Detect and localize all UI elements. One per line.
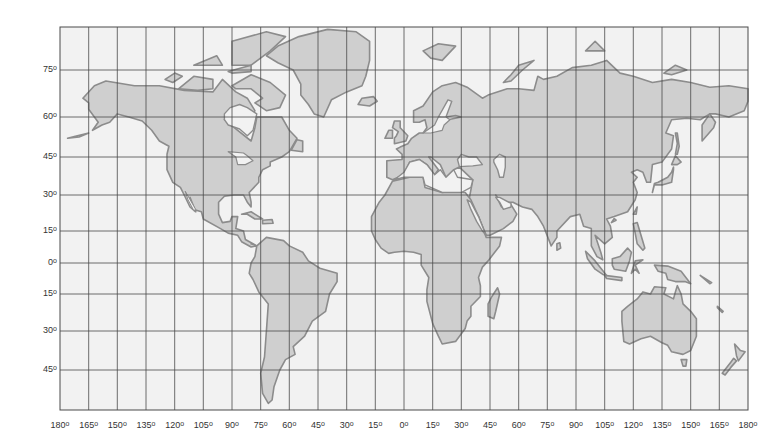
latitude-label: 0o (27, 258, 57, 267)
longitude-label: 90o (217, 421, 247, 430)
longitude-label: 45o (303, 421, 333, 430)
latitude-label: 30o (27, 190, 57, 199)
longitude-label: 180o (733, 421, 763, 430)
longitude-label: 180o (45, 421, 75, 430)
longitude-label: 45o (475, 421, 505, 430)
tasmania-landmass (681, 360, 687, 367)
longitude-label: 105o (188, 421, 218, 430)
latitude-label: 45o (27, 152, 57, 161)
latitude-label: 30o (27, 326, 57, 335)
latitude-label: 75o (27, 65, 57, 74)
longitude-label: 135o (131, 421, 161, 430)
longitude-label: 90o (561, 421, 591, 430)
longitude-label: 15o (360, 421, 390, 430)
longitude-label: 60o (274, 421, 304, 430)
longitude-label: 0o (389, 421, 419, 430)
sri-lanka-landmass (557, 243, 561, 251)
longitude-label: 30o (332, 421, 362, 430)
longitude-label: 165o (704, 421, 734, 430)
longitude-label: 75o (532, 421, 562, 430)
longitude-label: 105o (590, 421, 620, 430)
latitude-label: 60o (27, 112, 57, 121)
longitude-label: 150o (676, 421, 706, 430)
latitude-label: 15o (27, 289, 57, 298)
world-map (0, 0, 775, 447)
longitude-label: 165o (74, 421, 104, 430)
latitude-label: 15o (27, 226, 57, 235)
longitude-label: 75o (246, 421, 276, 430)
longitude-label: 135o (647, 421, 677, 430)
latitude-label: 45o (27, 365, 57, 374)
longitude-label: 120o (160, 421, 190, 430)
longitude-label: 120o (618, 421, 648, 430)
longitude-label: 15o (418, 421, 448, 430)
longitude-label: 30o (446, 421, 476, 430)
longitude-label: 150o (102, 421, 132, 430)
hispaniola-landmass (263, 220, 274, 224)
longitude-label: 60o (504, 421, 534, 430)
